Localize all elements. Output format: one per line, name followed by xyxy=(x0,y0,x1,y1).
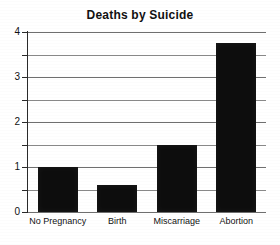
category-label: Abortion xyxy=(207,216,267,227)
bar xyxy=(157,145,197,213)
bar xyxy=(38,167,78,212)
bar xyxy=(216,43,256,212)
chart-title: Deaths by Suicide xyxy=(0,8,280,22)
bar-chart: Deaths by Suicide 01234 No PregnancyBirt… xyxy=(0,0,280,245)
y-axis-label: 0 xyxy=(0,207,20,217)
y-axis-label: 3 xyxy=(0,72,20,82)
plot-area xyxy=(28,32,266,212)
gridline xyxy=(28,32,266,33)
category-label: Miscarriage xyxy=(147,216,207,227)
y-axis-label: 1 xyxy=(0,162,20,172)
y-axis-label: 2 xyxy=(0,117,20,127)
category-label: Birth xyxy=(88,216,148,227)
y-axis-label: 4 xyxy=(0,27,20,37)
category-label: No Pregnancy xyxy=(28,216,88,227)
gridline xyxy=(28,212,266,213)
bar xyxy=(97,185,137,212)
